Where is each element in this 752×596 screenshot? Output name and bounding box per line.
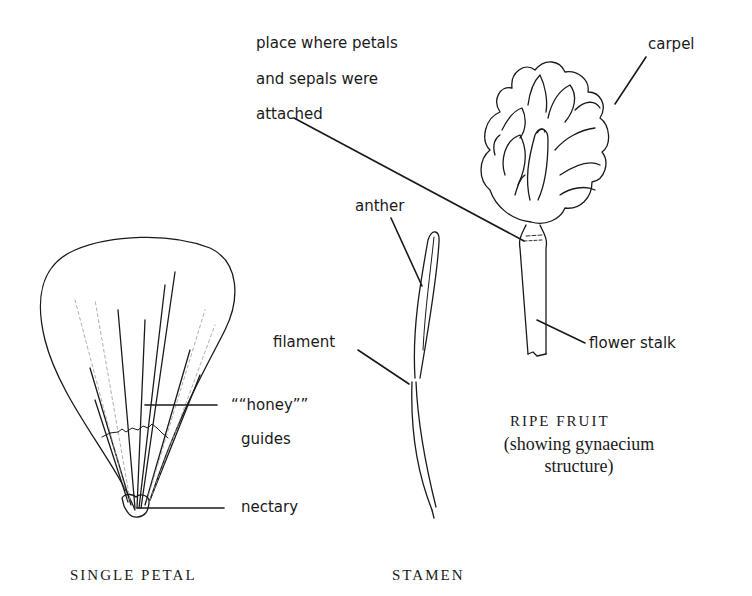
caption-ripe-fruit-sub2: structure) xyxy=(479,456,679,477)
botanical-diagram: place where petals and sepals were attac… xyxy=(0,0,752,596)
caption-ripe-fruit-sub1: (showing gynaecium xyxy=(479,434,679,455)
label-filament: filament xyxy=(273,335,335,350)
caption-ripe-fruit: RIPE FRUIT xyxy=(510,414,610,429)
caption-stamen: STAMEN xyxy=(392,568,464,583)
label-flower-stalk: flower stalk xyxy=(589,336,676,351)
stamen-drawing xyxy=(358,218,439,518)
ripe-fruit-drawing xyxy=(294,57,646,356)
label-place-line2: and sepals were xyxy=(256,72,378,87)
label-guides: guides xyxy=(241,432,291,447)
caption-single-petal: SINGLE PETAL xyxy=(70,568,197,583)
petal-drawing xyxy=(40,237,234,517)
label-honey: ““honey”” xyxy=(231,398,308,413)
label-carpel: carpel xyxy=(648,37,695,52)
label-place-line1: place where petals xyxy=(256,36,398,51)
diagram-drawing xyxy=(0,0,752,596)
label-anther: anther xyxy=(355,199,404,214)
label-place-line3: attached xyxy=(256,107,323,122)
label-nectary: nectary xyxy=(241,500,298,515)
